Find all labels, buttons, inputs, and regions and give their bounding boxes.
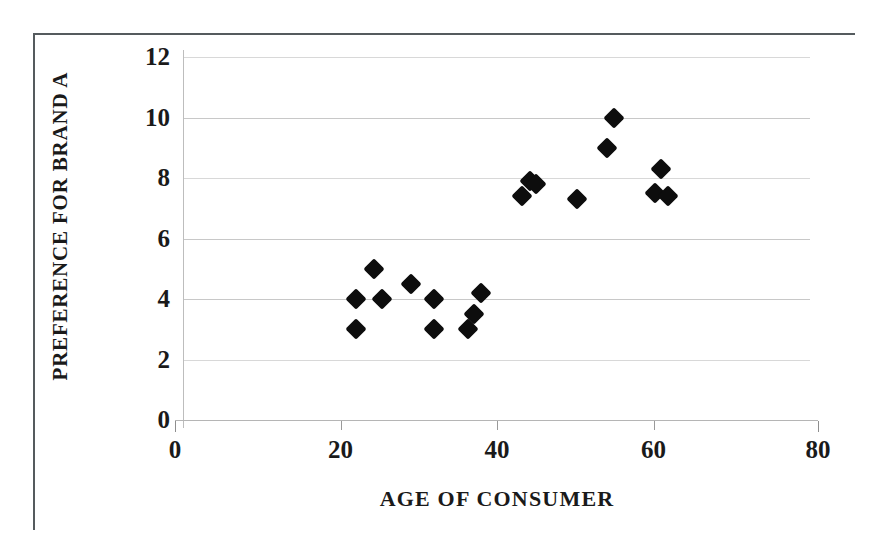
data-point: [364, 258, 385, 279]
x-axis-title: AGE OF CONSUMER: [184, 486, 810, 512]
data-point: [596, 137, 617, 158]
data-point: [651, 158, 672, 179]
data-point: [346, 319, 367, 340]
scatter-plot-figure: 024681012 020406080 AGE OF CONSUMER PREF…: [0, 0, 879, 560]
data-point: [371, 288, 392, 309]
data-point: [604, 107, 625, 128]
plot-area: [0, 0, 879, 560]
data-point: [424, 319, 445, 340]
data-point: [424, 288, 445, 309]
data-point: [400, 273, 421, 294]
y-axis-title: PREFERENCE FOR BRAND A: [48, 81, 73, 381]
data-point: [471, 282, 492, 303]
data-point: [566, 189, 587, 210]
data-point: [346, 288, 367, 309]
